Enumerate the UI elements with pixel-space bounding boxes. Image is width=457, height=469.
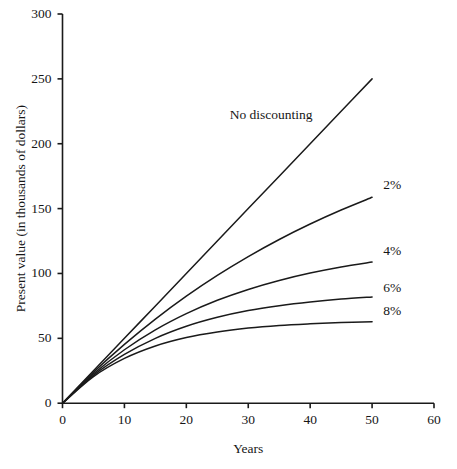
x-axis-tick-label: 60 [414, 413, 454, 427]
curve-no-discounting [63, 79, 373, 403]
chart-canvas [0, 0, 457, 469]
x-axis-tick-label: 0 [43, 413, 83, 427]
curve-label-8: 8% [383, 304, 401, 318]
curve-label-no-discounting: No discounting [230, 108, 313, 122]
y-axis-tick-label: 50 [0, 331, 52, 345]
x-axis-tick-label: 10 [104, 413, 144, 427]
y-axis-title: Present value (in thousands of dollars) [14, 105, 28, 312]
x-axis-tick-label: 40 [290, 413, 330, 427]
x-axis-tick-label: 20 [166, 413, 206, 427]
y-axis-tick-label: 250 [0, 72, 52, 86]
curve-label-2: 2% [383, 178, 401, 192]
x-axis-tick-label: 30 [228, 413, 268, 427]
x-axis-title: Years [20, 442, 457, 456]
curve-label-6: 6% [383, 281, 401, 295]
data-curves [63, 79, 373, 403]
curve-6 [63, 297, 373, 403]
y-axis-tick-label: 0 [0, 396, 52, 410]
curve-8 [63, 322, 373, 403]
curve-label-4: 4% [383, 244, 401, 258]
present-value-chart: 050100150200250300 0102030405060 No disc… [0, 0, 457, 469]
y-axis-tick-label: 300 [0, 7, 52, 21]
x-axis-tick-label: 50 [352, 413, 392, 427]
